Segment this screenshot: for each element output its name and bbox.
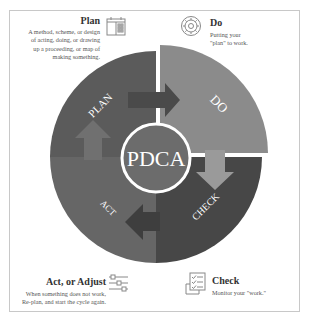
check-block: Check Monitor your "work."	[212, 275, 292, 297]
center-label: PDCA	[127, 146, 186, 171]
sliders-icon	[108, 273, 130, 293]
act-block: Act, or Adjust When something does not w…	[10, 276, 106, 307]
do-block: Do Putting your "plan" to work.	[210, 17, 290, 48]
calendar-icon	[105, 15, 127, 37]
plan-block: Plan A method, scheme, or design of acti…	[20, 15, 100, 62]
act-title: Act, or Adjust	[10, 276, 106, 287]
plan-title: Plan	[20, 15, 100, 26]
gear-icon	[180, 15, 202, 37]
do-description: Putting your "plan" to work.	[210, 31, 290, 48]
act-description: When something does not work, Re-plan, a…	[10, 290, 106, 307]
plan-description: A method, scheme, or design of acting, d…	[20, 28, 100, 62]
checklist-icon	[185, 272, 207, 296]
check-title: Check	[212, 275, 292, 286]
do-title: Do	[210, 17, 290, 28]
check-description: Monitor your "work."	[212, 289, 292, 297]
